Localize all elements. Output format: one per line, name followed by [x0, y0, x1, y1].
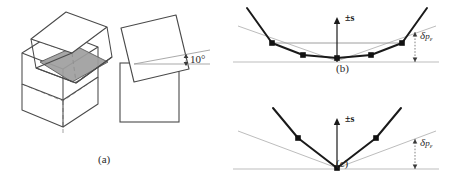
panel-b-delta-subsub: ε — [430, 35, 433, 43]
panel-c-delta-label: δpε — [420, 136, 432, 150]
panel-c-caption: (c) — [336, 157, 348, 169]
side-view-squares — [120, 15, 210, 122]
panel-a-caption: (a) — [98, 153, 110, 165]
isometric-cubes-view — [22, 12, 112, 133]
panel-c-graphic — [225, 93, 450, 186]
panel-b-caption: (b) — [336, 62, 349, 74]
panel-b-arrow-label: ±s — [345, 12, 354, 23]
figure-root: (a) 10° — [0, 0, 450, 186]
panel-a: (a) 10° — [0, 0, 225, 186]
delta-dimension-b — [413, 32, 418, 62]
panel-b-graphic — [225, 0, 450, 93]
delta-dimension-c — [413, 139, 418, 169]
side-view-upper-square — [121, 15, 189, 82]
panel-a-angle-label: 10° — [190, 53, 205, 65]
panel-c-delta-subsub: ε — [430, 142, 433, 150]
panel-c: (c) ±s δpε — [225, 93, 450, 186]
panel-b: (b) ±s δpε — [225, 0, 450, 93]
panel-c-arrow-label: ±s — [345, 113, 354, 124]
panel-b-delta-label: δpε — [420, 29, 432, 43]
panel-a-graphic — [0, 0, 225, 186]
